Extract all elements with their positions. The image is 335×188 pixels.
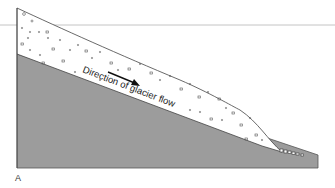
- panel-label: A: [15, 173, 21, 183]
- glacier-diagram: Direction of glacier flow: [0, 0, 335, 188]
